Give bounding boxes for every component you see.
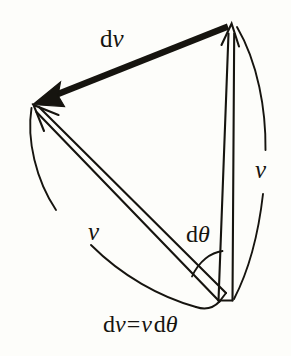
label-dv-d: d: [100, 25, 113, 52]
vector-right-shaft-left-edge: [219, 34, 229, 301]
equation-rhs-v: v: [141, 311, 152, 337]
arc-right-lower-segment: [234, 194, 263, 299]
velocity-vector-right: [219, 24, 240, 301]
vector-left-arrowhead: [34, 105, 59, 131]
label-dv-v: v: [113, 25, 124, 52]
dv-arrow-shaft: [56, 27, 229, 96]
label-dtheta-theta: θ: [198, 221, 210, 247]
vector-right-shaft-right-edge: [233, 34, 235, 301]
equation-lhs-d: d: [103, 311, 115, 337]
equation-lhs-v: v: [115, 311, 126, 337]
label-v-right-glyph: v: [255, 156, 266, 183]
label-dtheta: dθ: [186, 222, 210, 246]
label-dv-vector: dv: [100, 26, 124, 51]
arc-bottom-dv-segment: [196, 302, 220, 309]
equation-rhs-theta: θ: [166, 311, 178, 337]
dv-arrow: [33, 27, 228, 107]
label-v-left: v: [88, 219, 99, 244]
vector-diagram-figure: dv v v dθ dv=vdθ: [0, 0, 291, 356]
label-v-right: v: [255, 157, 266, 182]
velocity-vector-left: [34, 105, 227, 302]
label-v-left-glyph: v: [88, 218, 99, 245]
vector-left-shaft-lower-edge: [37, 112, 220, 302]
arc-left-radius-v: [30, 108, 196, 307]
diagram-canvas: [0, 0, 291, 356]
arc-left-lower-segment: [91, 245, 196, 307]
arc-left-upper-segment: [30, 108, 56, 210]
arc-right-upper-segment: [237, 27, 266, 150]
label-dtheta-d: d: [186, 221, 198, 247]
equation-equals: =: [126, 311, 142, 337]
equation-rhs-d: d: [154, 311, 166, 337]
label-equation: dv=vdθ: [103, 312, 178, 336]
